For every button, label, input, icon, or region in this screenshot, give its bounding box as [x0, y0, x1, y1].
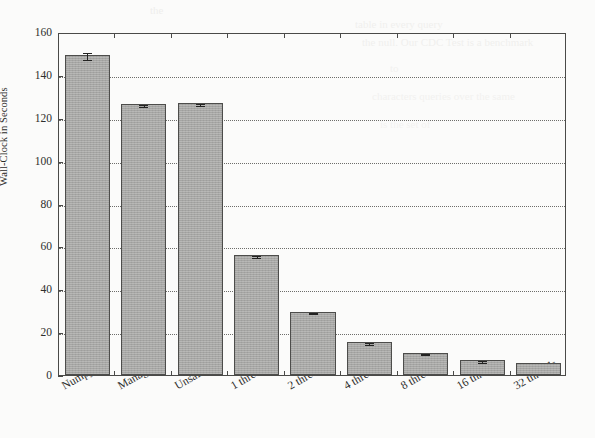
- y-tick-label: 140: [16, 70, 52, 82]
- bar-texture: [517, 364, 560, 374]
- error-bar-cap-bottom: [139, 107, 148, 108]
- y-tick-label: 60: [16, 241, 52, 253]
- bar-texture: [235, 256, 278, 374]
- bar-texture: [66, 56, 109, 374]
- error-bar-cap-bottom: [252, 258, 261, 259]
- bar: [347, 342, 392, 375]
- y-tick-label: 80: [16, 199, 52, 211]
- error-bar-cap-bottom: [83, 60, 92, 61]
- bar: [178, 103, 223, 375]
- error-bar-cap-bottom: [421, 355, 430, 356]
- y-tick-label: 20: [16, 327, 52, 339]
- error-bar-cap-bottom: [196, 106, 205, 107]
- gridline: [59, 77, 565, 78]
- bar-texture: [348, 343, 391, 374]
- bar: [290, 312, 335, 375]
- bar: [65, 55, 110, 375]
- y-tick-label: 40: [16, 284, 52, 296]
- bar-chart-figure: Wall-Clock in Seconds 020406080100120140…: [0, 0, 595, 438]
- error-bar: [87, 53, 88, 60]
- bar: [121, 104, 166, 375]
- y-tick-label: 100: [16, 156, 52, 168]
- bar: [234, 255, 279, 375]
- plot-area: [58, 33, 566, 376]
- error-bar-cap-bottom: [365, 345, 374, 346]
- bar: [516, 363, 561, 375]
- bar-texture: [291, 313, 334, 374]
- y-tick-label: 0: [16, 370, 52, 382]
- error-bar-cap-bottom: [478, 363, 487, 364]
- error-bar-cap-top: [83, 53, 92, 54]
- bar-texture: [404, 354, 447, 375]
- y-tick-mark: [58, 376, 63, 377]
- y-tick-label: 120: [16, 113, 52, 125]
- error-bar-cap-top: [196, 104, 205, 105]
- bar-texture: [179, 104, 222, 374]
- y-tick-label: 160: [16, 27, 52, 39]
- error-bar-cap-bottom: [309, 314, 318, 315]
- bar-texture: [122, 105, 165, 374]
- y-axis-label: Wall-Clock in Seconds: [0, 87, 9, 186]
